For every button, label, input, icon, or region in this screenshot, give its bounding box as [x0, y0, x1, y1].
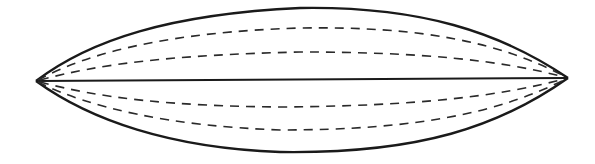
- lower-dashed-contour-inner: [40, 79, 564, 107]
- outline-top-curve: [36, 8, 568, 81]
- outline-bottom-curve: [36, 78, 568, 152]
- upper-dashed-contour-inner: [40, 52, 564, 80]
- lens-diagram: [0, 0, 595, 164]
- center-axis-line: [36, 78, 568, 81]
